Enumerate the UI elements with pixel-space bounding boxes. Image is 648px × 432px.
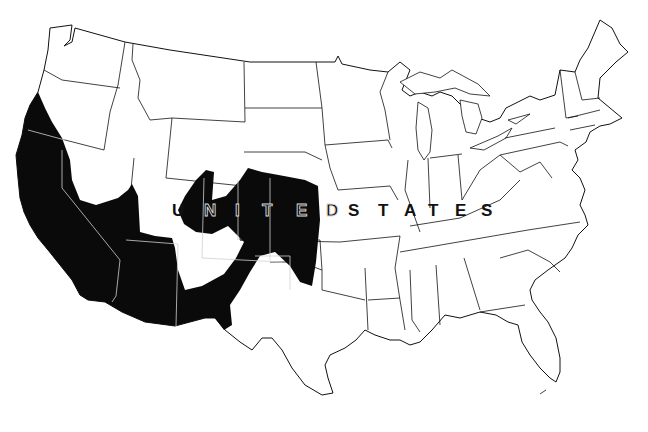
label-letter: U xyxy=(172,201,184,220)
florida-keys xyxy=(540,390,546,394)
label-letter: E xyxy=(296,201,307,220)
label-letter: S xyxy=(348,201,359,220)
label-letter: E xyxy=(455,201,466,220)
label-letter: I xyxy=(235,201,240,220)
label-letter: T xyxy=(378,201,389,220)
lake-superior xyxy=(400,70,490,96)
label-letter: D xyxy=(326,201,338,220)
label-letter: A xyxy=(404,201,416,220)
label-letter: T xyxy=(262,201,273,220)
label-letter: N xyxy=(204,201,216,220)
label-letter: T xyxy=(428,201,439,220)
us-map: U N I T E D S T A T E S xyxy=(0,0,648,432)
label-letter: S xyxy=(481,201,492,220)
